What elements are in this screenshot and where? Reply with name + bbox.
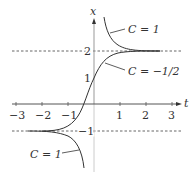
tick-label-neg2: −2	[35, 109, 51, 122]
tick-label-1: 1	[116, 109, 123, 122]
annotation-c-mid: C = −1/2	[128, 65, 180, 78]
leader-c-upper	[110, 29, 125, 33]
leader-c-mid	[105, 63, 125, 70]
annotation-c-lower: C = 1	[30, 148, 62, 161]
tick-label-3: 3	[168, 109, 175, 122]
y-axis-arrow-icon	[92, 18, 96, 24]
tick-label-2: 2	[142, 109, 149, 122]
y-axis-label: x	[90, 5, 97, 18]
chart-canvas: x t −3 −2 −1 1 2 3 2 1 −1 C = 1 C = −1/2…	[0, 0, 196, 178]
leader-c-lower	[62, 150, 79, 153]
x-axis-label: t	[184, 97, 189, 110]
y-tick-label-1: 1	[84, 72, 91, 85]
x-axis-arrow-icon	[176, 102, 182, 106]
y-tick-label-neg1: −1	[78, 125, 94, 138]
y-tick-label-2: 2	[84, 45, 91, 58]
tick-label-neg3: −3	[9, 109, 25, 122]
annotation-c-upper: C = 1	[128, 23, 160, 36]
